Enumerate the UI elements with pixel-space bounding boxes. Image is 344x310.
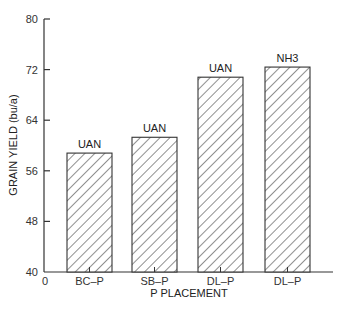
y-tick-label: 80 bbox=[26, 13, 38, 25]
y-tick-label: 40 bbox=[26, 266, 38, 278]
bar: UANDL–P bbox=[198, 62, 243, 287]
bar-annotation: NH3 bbox=[276, 52, 298, 64]
x-category-label: DL–P bbox=[274, 275, 302, 287]
x-category-label: BC–P bbox=[75, 275, 104, 287]
x-origin-label: 0 bbox=[42, 275, 48, 287]
y-tick-label: 48 bbox=[26, 215, 38, 227]
bar: UANBC–P bbox=[67, 138, 112, 287]
y-axis: 404856647280 bbox=[26, 13, 50, 278]
y-tick-label: 72 bbox=[26, 64, 38, 76]
y-tick-label: 64 bbox=[26, 114, 38, 126]
bars: UANBC–PUANSB–PUANDL–PNH3DL–P bbox=[67, 52, 310, 287]
bar-annotation: UAN bbox=[78, 138, 101, 150]
bar: UANSB–P bbox=[132, 122, 177, 287]
x-category-label: DL–P bbox=[207, 275, 235, 287]
x-category-label: SB–P bbox=[140, 275, 168, 287]
bar: NH3DL–P bbox=[265, 52, 310, 287]
x-axis-title: P PLACEMENT bbox=[150, 287, 228, 299]
bar-chart: 404856647280 0 UANBC–PUANSB–PUANDL–PNH3D… bbox=[0, 0, 344, 310]
bar-annotation: UAN bbox=[143, 122, 166, 134]
y-axis-title: GRAIN YIELD (bu/a) bbox=[7, 94, 19, 195]
bar-annotation: UAN bbox=[209, 62, 232, 74]
y-tick-label: 56 bbox=[26, 165, 38, 177]
